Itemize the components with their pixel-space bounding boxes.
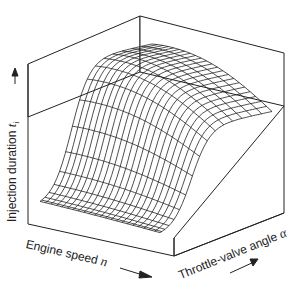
y-arrowhead [12, 68, 18, 76]
back-wall-left [28, 16, 140, 117]
z-arrowhead [250, 259, 258, 266]
x-arrowhead [139, 271, 152, 278]
y-axis-label: Injection duration ti [4, 121, 21, 222]
z-axis-arrow [230, 262, 254, 273]
